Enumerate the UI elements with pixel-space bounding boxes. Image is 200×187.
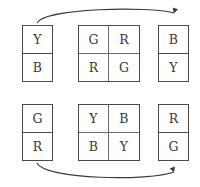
top-arrow-path [37, 9, 174, 23]
tile-cell: B [109, 105, 139, 133]
tile-cell: G [109, 54, 139, 82]
tile-cell: Y [159, 54, 188, 82]
tile-cell: R [23, 133, 52, 161]
tile-cell: G [159, 133, 188, 161]
tile-cell: B [79, 133, 109, 161]
tile-group-top-left[interactable]: Y B [22, 25, 53, 82]
diagram-canvas: Y B G R R G B Y G R Y B B Y R G [0, 0, 200, 187]
tile-group-top-right[interactable]: B Y [158, 25, 189, 82]
tile-group-bottom-left[interactable]: G R [22, 104, 53, 161]
tile-cell: Y [23, 26, 52, 54]
tile-cell: G [23, 105, 52, 133]
tile-cell: B [23, 54, 52, 82]
tile-cell: Y [79, 105, 109, 133]
tile-group-bottom-right[interactable]: R G [158, 104, 189, 161]
tile-cell: R [159, 105, 188, 133]
tile-cell: R [109, 26, 139, 54]
tile-group-bottom-middle[interactable]: Y B B Y [78, 104, 140, 161]
tile-cell: R [79, 54, 109, 82]
tile-cell: G [79, 26, 109, 54]
tile-cell: B [159, 26, 188, 54]
tile-cell: Y [109, 133, 139, 161]
bottom-arrow-path [37, 163, 174, 178]
tile-group-top-middle[interactable]: G R R G [78, 25, 140, 82]
